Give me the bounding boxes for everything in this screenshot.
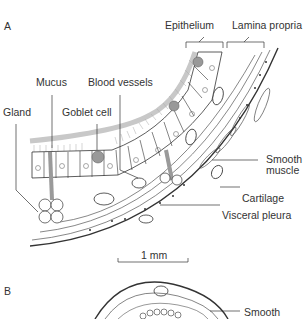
scale-bar-label: 1 mm: [141, 249, 167, 261]
label-smooth-muscle-line2: muscle: [266, 164, 299, 176]
panel-label-a: A: [4, 20, 11, 32]
label-smooth-b: Smooth: [244, 306, 280, 318]
label-goblet-cell: Goblet cell: [62, 106, 112, 118]
bronchial-wall-diagram: [0, 0, 303, 319]
label-blood-vessels: Blood vessels: [88, 76, 153, 88]
panel-label-b: B: [4, 285, 11, 297]
label-gland: Gland: [3, 106, 31, 118]
panel-b-airway: [95, 282, 240, 319]
label-epithelium: Epithelium: [165, 19, 214, 31]
label-lamina-propria: Lamina propria: [232, 19, 302, 31]
label-cartilage: Cartilage: [242, 192, 284, 204]
label-mucus: Mucus: [36, 76, 67, 88]
label-visceral-pleura: Visceral pleura: [222, 209, 291, 221]
